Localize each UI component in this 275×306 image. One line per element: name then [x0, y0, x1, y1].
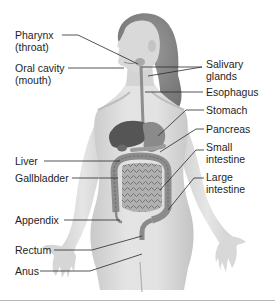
- label-stomach: Stomach: [206, 104, 247, 116]
- label-pharynx: Pharynx (throat): [15, 29, 54, 53]
- label-rectum-text: Rectum: [15, 244, 51, 256]
- label-appendix: Appendix: [15, 214, 59, 226]
- label-pancreas: Pancreas: [206, 123, 250, 135]
- digestive-system-figure: Pharynx (throat) Oral cavity (mouth) Liv…: [0, 0, 275, 306]
- label-oral-cavity: Oral cavity (mouth): [15, 62, 65, 86]
- label-salivary-glands: Salivary glands: [206, 58, 243, 82]
- label-rectum: Rectum: [15, 244, 51, 256]
- label-small-intestine: Small intestine: [206, 141, 245, 165]
- label-oral-cavity-line2: (mouth): [15, 74, 65, 86]
- label-salivary-glands-line1: Salivary: [206, 58, 243, 70]
- label-salivary-glands-line2: glands: [206, 70, 243, 82]
- label-liver: Liver: [15, 155, 38, 167]
- label-gallbladder-text: Gallbladder: [15, 172, 69, 184]
- small-intestine-organ: [122, 163, 162, 212]
- label-anus: Anus: [15, 265, 39, 277]
- label-small-intestine-line1: Small: [206, 141, 245, 153]
- gallbladder-organ: [117, 145, 127, 152]
- label-small-intestine-line2: intestine: [206, 153, 245, 165]
- label-large-intestine: Large intestine: [206, 171, 245, 195]
- esophagus-organ: [141, 66, 143, 124]
- label-pharynx-line1: Pharynx: [15, 29, 54, 41]
- label-liver-text: Liver: [15, 155, 38, 167]
- label-large-intestine-line1: Large: [206, 171, 245, 183]
- label-esophagus-text: Esophagus: [206, 86, 259, 98]
- label-pharynx-line2: (throat): [15, 41, 54, 53]
- label-stomach-text: Stomach: [206, 104, 247, 116]
- label-appendix-text: Appendix: [15, 214, 59, 226]
- label-esophagus: Esophagus: [206, 86, 259, 98]
- label-anus-text: Anus: [15, 265, 39, 277]
- bottom-divider: [0, 300, 275, 301]
- label-oral-cavity-line1: Oral cavity: [15, 62, 65, 74]
- label-large-intestine-line2: intestine: [206, 183, 245, 195]
- label-pancreas-text: Pancreas: [206, 123, 250, 135]
- label-gallbladder: Gallbladder: [15, 172, 69, 184]
